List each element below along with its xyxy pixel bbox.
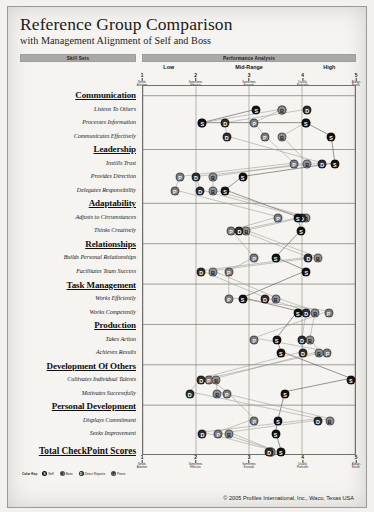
data-marker-D: D [298,335,307,344]
total-scores-label: Total CheckPoint Scores [39,446,136,456]
legend-item-peers: PPeers [111,471,125,476]
legend-item-direct-reports: DDirect Reports [79,471,105,476]
tick-label: NeedsAttention [137,463,148,469]
data-marker-S: S [252,105,261,114]
data-marker-S: S [293,213,302,222]
tick-label: AlwaysExcels [352,463,361,469]
tick-number: 5 [352,73,361,78]
skill-label: Adjusts to Circumstances [75,214,136,220]
data-marker-S: S [293,308,302,317]
data-marker-S: S [198,119,207,128]
data-marker-B: B [208,186,217,195]
legend-label: Direct Reports [85,472,105,476]
skill-label: Thinks Creatively [94,227,136,233]
plot-area: PPPPPPPPPPPPPPPPPPPBBBBBBBBBBBBBBBBBBBBD… [142,85,356,455]
data-marker-P: P [224,295,233,304]
data-marker-S: S [238,295,247,304]
category-label-development-of-others: Development Of Others [47,361,136,371]
band-skill-sets: Skill Sets [20,54,136,62]
data-marker-B: B [224,430,233,439]
data-marker-D: D [196,186,205,195]
data-marker-S: S [301,119,310,128]
data-marker-D: D [318,159,327,168]
zone-label-mid-range: Mid-Range [235,64,263,70]
tick-label: UsuallyProficient [297,463,308,469]
skill-label: Achieves Results [96,349,136,355]
data-marker-D: D [313,416,322,425]
data-marker-S: S [327,132,336,141]
data-marker-D: D [303,105,312,114]
skill-label: Listens To Others [94,106,136,112]
legend-dot-D: D [79,471,84,476]
data-marker-S: S [274,416,283,425]
category-label-adaptability: Adaptability [89,198,136,208]
tick-number: 4 [297,455,308,460]
zone-label-low: Low [163,64,174,70]
data-marker-B: B [277,105,286,114]
data-marker-P: P [290,159,299,168]
legend-item-boss: BBoss [60,471,73,476]
series-line-S [202,110,350,450]
data-marker-P: P [170,186,179,195]
data-marker-D: D [260,295,269,304]
data-marker-B: B [303,159,312,168]
skill-label: Facilitates Team Success [76,268,136,274]
data-marker-B: B [208,267,217,276]
report-sheet: Reference Group Comparison with Manageme… [7,6,367,508]
data-marker-B: B [314,349,323,358]
data-marker-P: P [224,267,233,276]
axis-tick-5: 5AlwaysExcels [352,455,361,469]
tick-number: 4 [297,73,308,78]
tick-number: 2 [189,73,202,78]
report-page: Reference Group Comparison with Manageme… [0,0,374,512]
legend-label: Peers [117,472,125,476]
skill-label: Communicates Effectively [74,133,136,139]
skill-label: Displays Commitment [83,417,136,423]
data-marker-S: S [238,173,247,182]
data-marker-P: P [176,173,185,182]
data-marker-D: D [235,227,244,236]
zone-labels: LowMid-RangeHigh [142,64,356,73]
data-marker-B: B [213,389,222,398]
data-marker-S: S [272,335,281,344]
page-subtitle: with Management Alignment of Self and Bo… [20,35,356,46]
data-marker-S: S [296,227,305,236]
data-marker-S: S [302,267,311,276]
data-marker-D: D [198,430,207,439]
data-marker-P: P [250,416,259,425]
data-marker-P: P [250,254,259,263]
connector-lines [143,86,355,454]
data-marker-D: D [197,376,206,385]
tick-number: 1 [137,73,148,78]
tick-number: 2 [189,455,202,460]
axis-tick-4: 4UsuallyProficient [297,455,308,469]
tick-label: SometimesEffective [189,463,202,469]
data-marker-P: P [250,119,259,128]
skill-label: Seeks Improvement [90,430,136,436]
legend-key-label: Color Key: [22,472,38,476]
skill-label: Takes Action [106,336,136,342]
data-marker-D: D [185,389,194,398]
skill-label: Instills Trust [106,160,136,166]
data-marker-D: D [222,132,231,141]
skill-label: Cultivates Individual Talents [67,376,136,382]
band-performance: Performance Analysis [142,54,356,62]
category-label-relationships: Relationships [85,239,136,249]
tick-label: SometimesExceeds [242,463,255,469]
data-marker-P: P [260,132,269,141]
skill-label: Motivates Successfully [82,390,136,396]
data-marker-B: B [305,335,314,344]
axis-tick-2: 2SometimesEffective [189,455,202,469]
data-marker-S: S [346,376,355,385]
tick-number: 5 [352,455,361,460]
header-bands: Skill Sets Performance Analysis [20,54,356,62]
legend-dot-P: P [111,471,116,476]
category-label-communication: Communication [75,90,136,100]
data-marker-B: B [311,308,320,317]
data-marker-S: S [330,159,339,168]
skill-label: Processes Information [82,119,136,125]
data-marker-P: P [324,308,333,317]
copyright-notice: © 2005 Profiles International, Inc., Wac… [223,495,354,501]
category-label-task-management: Task Management [67,280,136,290]
data-marker-D: D [192,173,201,182]
